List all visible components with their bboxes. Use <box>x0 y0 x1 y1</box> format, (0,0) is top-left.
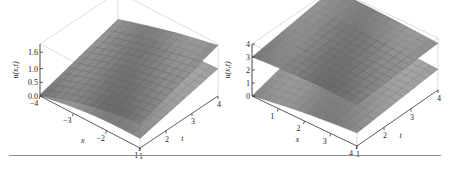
left-plot-canvas: −4−3−2−1x1234t0.00.51.01.6u(x,t) <box>0 0 225 160</box>
x-tick <box>304 121 305 124</box>
x-tick-label: 4 <box>349 149 353 158</box>
z-tick-label: 2 <box>246 66 250 75</box>
right-surface-plot: 1234x1234t01234u(x,t) <box>225 0 450 160</box>
z-tick-label: 4 <box>246 40 250 49</box>
t-tick-label: 3 <box>410 113 414 122</box>
x-tick <box>39 96 40 99</box>
z-axis-label: u(x,t) <box>11 61 20 78</box>
x-tick <box>72 113 73 116</box>
x-tick-label: −3 <box>63 116 72 125</box>
x-tick-label: 2 <box>297 124 301 133</box>
t-tick-label: 3 <box>191 117 195 126</box>
x-tick <box>106 131 107 134</box>
x-tick-label: −2 <box>96 134 105 143</box>
bottom-rule-divider <box>9 155 441 156</box>
t-axis-label: t <box>181 134 184 143</box>
z-axis-label: u(x,t) <box>225 61 232 78</box>
x-tick <box>330 134 331 137</box>
z-tick-label: 1.6 <box>28 48 38 57</box>
t-tick-label: 1 <box>139 152 143 160</box>
z-tick-label: 0 <box>246 92 250 101</box>
t-axis-label: t <box>399 131 402 140</box>
t-tick-label: 2 <box>383 131 387 140</box>
z-tick-label: 0.0 <box>28 92 38 101</box>
x-tick <box>277 109 278 112</box>
t-tick-label: 2 <box>165 135 169 144</box>
t-tick-label: 4 <box>217 100 221 109</box>
x-tick-label: 3 <box>323 137 327 146</box>
z-tick-label: 1.0 <box>28 65 38 74</box>
z-tick-label: 0.5 <box>28 78 38 87</box>
t-tick-label: 4 <box>437 94 441 103</box>
right-plot-canvas: 1234x1234t01234u(x,t) <box>225 0 450 160</box>
x-tick-label: 1 <box>270 112 274 121</box>
left-surface-plot: −4−3−2−1x1234t0.00.51.01.6u(x,t) <box>0 0 225 160</box>
z-tick-label: 1 <box>246 79 250 88</box>
upper-surface-mesh <box>40 19 218 123</box>
x-axis-label: x <box>295 135 300 144</box>
z-tick-label: 3 <box>246 53 250 62</box>
x-axis-label: x <box>80 136 85 145</box>
